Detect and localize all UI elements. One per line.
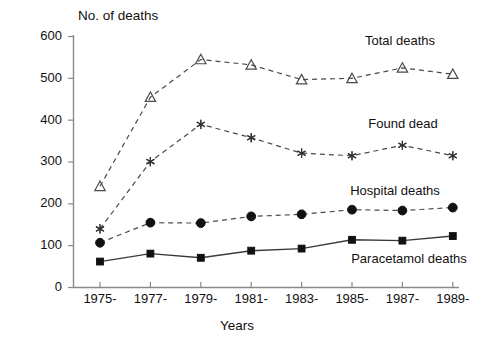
marker-open-triangle [246, 60, 256, 69]
y-tick-label: 500 [40, 70, 62, 85]
marker-filled-square [248, 247, 255, 254]
chart-title: No. of deaths [78, 8, 159, 23]
marker-star [247, 133, 255, 142]
y-tick-label: 0 [55, 279, 62, 294]
marker-filled-circle [297, 210, 306, 219]
marker-star [398, 141, 406, 150]
x-tick-label: 1985- [335, 291, 368, 306]
marker-star [197, 120, 205, 129]
series-found-dead [96, 120, 457, 234]
series-layer [95, 54, 458, 265]
marker-filled-square [349, 236, 356, 243]
marker-filled-square [147, 250, 154, 257]
x-tick-label: 1977- [134, 291, 167, 306]
marker-filled-circle [348, 205, 357, 214]
marker-star [146, 157, 154, 166]
y-tick-label: 600 [40, 28, 62, 43]
y-tick-label: 300 [40, 153, 62, 168]
x-tick-label: 1975- [83, 291, 116, 306]
x-tick-label: 1979- [184, 291, 217, 306]
marker-filled-circle [96, 238, 105, 247]
chart-container: No. of deaths 0100200300400500600 1975-1… [0, 0, 484, 351]
marker-filled-circle [398, 206, 407, 215]
series-label-found-dead: Found dead [368, 116, 437, 131]
series-labels: Total deathsFound deadHospital deathsPar… [350, 33, 467, 266]
x-axis-title: Years [220, 318, 254, 333]
x-tick-label: 1981- [235, 291, 268, 306]
marker-filled-square [298, 245, 305, 252]
marker-filled-circle [196, 219, 205, 228]
series-label-paracetamol-deaths: Paracetamol deaths [351, 251, 467, 266]
x-axis: 1975-1977-1979-1981-1983-1985-1987-1989- [83, 282, 469, 306]
series-label-hospital-deaths: Hospital deaths [350, 183, 440, 198]
marker-filled-circle [448, 203, 457, 212]
y-tick-label: 100 [40, 237, 62, 252]
x-tick-label: 1983- [285, 291, 318, 306]
y-axis: 0100200300400500600 [40, 28, 74, 294]
marker-filled-square [97, 258, 104, 265]
marker-filled-circle [247, 212, 256, 221]
series-label-total-deaths: Total deaths [365, 33, 436, 48]
marker-filled-square [197, 254, 204, 261]
deaths-line-chart: No. of deaths 0100200300400500600 1975-1… [0, 0, 484, 351]
y-tick-label: 400 [40, 112, 62, 127]
marker-filled-circle [146, 218, 155, 227]
x-tick-label: 1989- [436, 291, 469, 306]
x-tick-label: 1987- [386, 291, 419, 306]
y-tick-label: 200 [40, 195, 62, 210]
marker-filled-square [449, 233, 456, 240]
marker-filled-square [399, 237, 406, 244]
marker-star [449, 151, 457, 160]
